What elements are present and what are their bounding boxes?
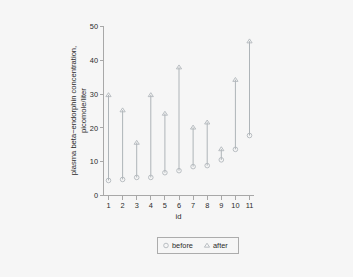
x-axis: 1234567891011	[104, 196, 255, 211]
x-axis-title: id	[176, 212, 182, 221]
data-point-group-3	[134, 140, 139, 179]
y-tick-label-10: 10	[90, 157, 98, 166]
data-point-group-2	[120, 108, 125, 182]
x-tick-label-9: 9	[219, 201, 223, 210]
y-tick-label-50: 50	[90, 22, 98, 31]
x-tick-label-7: 7	[191, 201, 195, 210]
legend-label-before: before	[172, 241, 193, 250]
data-point-group-4	[148, 93, 153, 180]
data-point-group-1	[106, 93, 111, 183]
x-tick-label-6: 6	[177, 201, 181, 210]
x-tick-label-2: 2	[121, 201, 125, 210]
data-series-group	[106, 39, 252, 183]
chart-figure: 01020304050 1234567891011 idplasma beta−…	[0, 0, 353, 277]
x-tick-label-10: 10	[231, 201, 239, 210]
x-tick-label-4: 4	[149, 201, 153, 210]
x-tick-label-8: 8	[205, 201, 209, 210]
data-point-group-9	[219, 147, 224, 162]
y-tick-label-30: 30	[90, 90, 98, 99]
data-point-group-8	[205, 120, 210, 168]
x-tick-label-5: 5	[163, 201, 167, 210]
x-tick-label-3: 3	[135, 201, 139, 210]
y-tick-label-0: 0	[94, 191, 98, 200]
x-tick-label-11: 11	[246, 201, 254, 210]
data-point-group-7	[190, 125, 195, 169]
y-axis-title-line-1: plasma beta−endorphin concentration,	[69, 46, 78, 175]
data-point-group-5	[162, 111, 167, 175]
y-axis-title-line-2: picomole/liter	[79, 88, 88, 133]
y-axis: 01020304050	[90, 22, 104, 200]
data-point-group-6	[176, 65, 181, 173]
x-tick-label-1: 1	[106, 201, 110, 210]
y-tick-label-20: 20	[90, 124, 98, 133]
data-point-group-10	[233, 77, 238, 151]
legend-label-after: after	[213, 241, 228, 250]
chart-legend: beforeafter	[158, 238, 239, 254]
y-tick-label-40: 40	[90, 56, 98, 65]
data-point-group-11	[247, 39, 252, 138]
plot-canvas: 01020304050 1234567891011 idplasma beta−…	[0, 0, 353, 277]
